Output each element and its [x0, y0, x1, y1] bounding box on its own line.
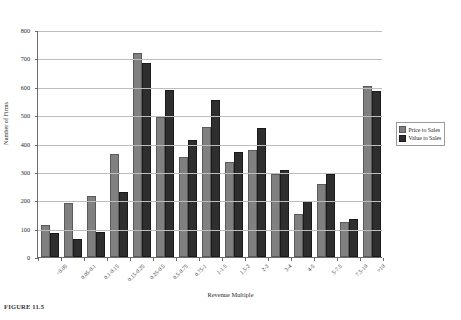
y-tick-mark: [35, 173, 38, 174]
bar-dark: [326, 174, 335, 257]
x-tick-mark: [84, 258, 85, 261]
y-tick-mark: [35, 31, 38, 32]
bar-dark: [211, 100, 220, 257]
x-tick-mark: [38, 258, 39, 261]
x-tick-mark: [130, 258, 131, 261]
x-tick-mark: [153, 258, 154, 261]
y-tick-label: 700: [0, 56, 30, 62]
x-tick-mark: [107, 258, 108, 261]
plot-area: [37, 31, 382, 258]
y-tick-mark: [35, 116, 38, 117]
figure-caption: FIGURE 11.5: [4, 303, 44, 310]
y-tick-mark: [35, 230, 38, 231]
x-tick-mark: [268, 258, 269, 261]
x-tick-label: 5-7.5: [331, 263, 343, 275]
bar-gray: [156, 117, 165, 257]
bar-gray: [133, 53, 142, 257]
x-tick-label: 2-3: [260, 263, 270, 273]
bar-dark: [349, 219, 358, 257]
bar-gray: [340, 222, 349, 257]
x-tick-mark: [383, 258, 384, 261]
y-tick-label: 600: [0, 85, 30, 91]
x-tick-mark: [176, 258, 177, 261]
figure-container: Number of Firms 010020030040050060070080…: [0, 0, 461, 320]
y-axis-title: Number of Firms: [2, 102, 9, 145]
bar-gray: [317, 184, 326, 258]
grid-line: [38, 173, 382, 174]
x-tick-label: 0.05-0.1: [80, 263, 97, 280]
y-tick-label: 200: [0, 198, 30, 204]
x-tick-label: 4-5: [306, 263, 316, 273]
y-tick-label: 800: [0, 28, 30, 34]
x-tick-label: 0.1-0.15: [103, 263, 120, 280]
x-axis-title: Revenue Multiple: [0, 291, 461, 298]
x-tick-label: 0.75-1: [193, 263, 207, 277]
x-tick-label: 0.5-0.75: [172, 263, 189, 280]
grid-line: [38, 88, 382, 89]
y-tick-mark: [35, 59, 38, 60]
bar-dark: [50, 233, 59, 257]
bar-gray: [225, 162, 234, 257]
bar-gray: [363, 86, 372, 257]
x-tick-label: 7.5-10: [354, 263, 368, 277]
legend-swatch-icon: [399, 135, 406, 142]
x-tick-label: 0.15-0.25: [127, 263, 146, 282]
x-tick-label: 3-4: [283, 263, 293, 273]
x-tick-mark: [222, 258, 223, 261]
x-tick-mark: [314, 258, 315, 261]
grid-line: [38, 230, 382, 231]
bar-gray: [110, 154, 119, 257]
grid-line: [38, 116, 382, 117]
y-tick-label: 500: [0, 113, 30, 119]
bar-dark: [73, 239, 82, 257]
x-tick-mark: [360, 258, 361, 261]
x-tick-mark: [61, 258, 62, 261]
grid-line: [38, 201, 382, 202]
bar-gray: [294, 214, 303, 257]
y-tick-mark: [35, 201, 38, 202]
x-tick-label: 1.5-2: [239, 263, 251, 275]
bar-gray: [87, 196, 96, 257]
grid-line: [38, 145, 382, 146]
bar-dark: [96, 232, 105, 257]
x-tick-mark: [337, 258, 338, 261]
x-tick-mark: [245, 258, 246, 261]
bar-gray: [271, 174, 280, 257]
x-tick-label: 1-1.5: [216, 263, 228, 275]
bar-gray: [202, 127, 211, 257]
legend-label: Price to Sales: [409, 126, 441, 134]
legend-item: Value to Sales: [399, 134, 441, 142]
y-tick-label: 400: [0, 141, 30, 147]
y-tick-mark: [35, 88, 38, 89]
bar-dark: [257, 128, 266, 257]
x-tick-mark: [199, 258, 200, 261]
y-tick-label: 300: [0, 170, 30, 176]
y-tick-label: 0: [0, 255, 30, 261]
legend-swatch-icon: [399, 126, 406, 133]
y-tick-label: 100: [0, 227, 30, 233]
bar-dark: [142, 63, 151, 257]
x-tick-label: >10: [376, 263, 386, 273]
x-tick-mark: [291, 258, 292, 261]
bar-dark: [234, 152, 243, 257]
y-tick-mark: [35, 145, 38, 146]
chart-legend: Price to SalesValue to Sales: [396, 122, 445, 146]
x-tick-label: <0.05: [55, 263, 68, 276]
grid-line: [38, 31, 382, 32]
bar-dark: [188, 140, 197, 257]
bar-dark: [280, 170, 289, 257]
x-tick-label: 0.25-0.5: [149, 263, 166, 280]
legend-item: Price to Sales: [399, 126, 441, 134]
grid-line: [38, 59, 382, 60]
legend-label: Value to Sales: [409, 134, 442, 142]
bar-gray: [179, 157, 188, 257]
bar-gray: [248, 150, 257, 257]
